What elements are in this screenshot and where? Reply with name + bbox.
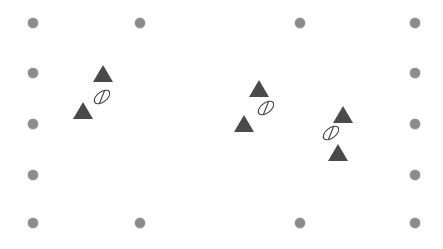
grid-dot-left-4 [28,170,38,180]
triangle-marker-right-lower [328,144,348,161]
triangle-marker-left-upper [93,65,113,82]
grid-dot-top-1 [28,18,38,28]
grid-dot-top-3 [295,18,305,28]
grid-dot-left-2 [28,68,38,78]
triangle-marker-middle-lower [234,115,254,132]
grid-dot-right-3 [410,119,420,129]
grid-dot-bottom-1 [28,218,38,228]
grid-dot-bottom-2 [135,218,145,228]
triangle-marker-left-lower [73,102,93,119]
marker-scatter-canvas [0,0,443,249]
grid-dot-top-4 [410,18,420,28]
triangle-marker-middle-upper [249,80,269,97]
grid-dot-bottom-3 [295,218,305,228]
grid-dot-left-3 [28,119,38,129]
grid-dot-top-2 [135,18,145,28]
grid-dot-bottom-4 [410,218,420,228]
grid-dot-right-2 [410,68,420,78]
grid-dot-right-4 [410,170,420,180]
ellipse-marker-middle [252,94,281,121]
